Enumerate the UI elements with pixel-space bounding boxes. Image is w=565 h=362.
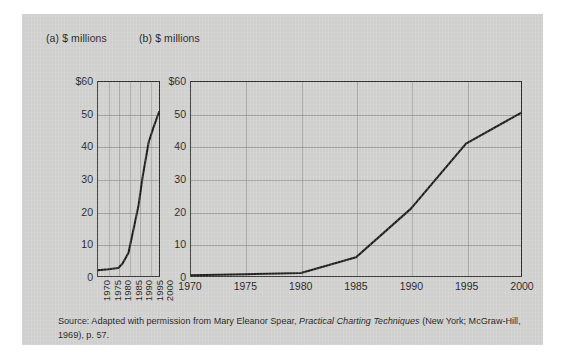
panel-a-y-tick-label: 20: [81, 206, 93, 218]
panel-a-x-axis: 1970197519801985199019952000: [97, 280, 160, 316]
panel-b-x-tick-label: 1990: [400, 280, 423, 292]
source-work-title: Practical Charting Techniques: [299, 316, 419, 326]
panel-a-x-tick-label: 1985: [133, 280, 144, 301]
panel-a-x-tick-label: 1990: [143, 280, 154, 301]
panel-b-y-tick-label: 10: [174, 238, 186, 250]
panel-a-y-tick-label: 50: [81, 108, 93, 120]
panel-b-y-tick-label: 30: [174, 173, 186, 185]
panel-b-x-tick-label: 1980: [289, 280, 312, 292]
panel-a-y-tick-label: 40: [81, 140, 93, 152]
panel-a-x-tick-label: 1980: [122, 280, 133, 301]
panel-a-x-tick-label: 1970: [101, 280, 112, 301]
panel-a-y-tick-label: 0: [87, 271, 93, 283]
panel-b-y-tick-label: $60: [168, 75, 186, 87]
panel-a-y-tick-label: 10: [81, 238, 93, 250]
panel-b-y-tick-label: 20: [174, 206, 186, 218]
figure-container: (a) $ millions $6050403020100 1970197519…: [22, 14, 543, 345]
source-prefix: Source: Adapted with permission from Mar…: [58, 316, 297, 326]
panel-b-title: (b) $ millions: [139, 32, 200, 44]
panel-b-data-line: [191, 82, 521, 277]
panel-b-x-tick-label: 1975: [234, 280, 257, 292]
panel-a-data-line: [98, 82, 159, 272]
panel-b-y-tick-label: 40: [174, 140, 186, 152]
panel-a-x-tick-label: 2000: [164, 280, 175, 301]
panel-b-x-tick-label: 1995: [455, 280, 478, 292]
panel-b-y-axis: $6050403020100: [153, 81, 186, 277]
panel-a-y-tick-label: $60: [75, 75, 93, 87]
panel-a-x-tick-label: 1975: [112, 280, 123, 301]
panel-a-plot-area: [97, 81, 160, 277]
source-note: Source: Adapted with permission from Mar…: [58, 315, 536, 342]
panel-a-x-tick-label: 1995: [154, 280, 165, 301]
panel-a-y-axis: $6050403020100: [60, 81, 93, 277]
panel-b-x-tick-label: 1970: [178, 280, 201, 292]
panel-a-y-tick-label: 30: [81, 173, 93, 185]
panel-b-x-tick-label: 2000: [510, 280, 533, 292]
panel-b-plot-area: [190, 81, 522, 277]
panel-b-x-axis: 1970197519801985199019952000: [190, 280, 522, 294]
panel-b-x-tick-label: 1985: [344, 280, 367, 292]
panel-a-title: (a) $ millions: [46, 32, 107, 44]
panel-b-y-tick-label: 50: [174, 108, 186, 120]
